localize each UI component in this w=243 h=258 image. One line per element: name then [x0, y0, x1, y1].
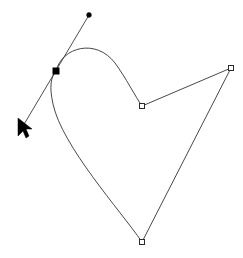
- bottom-anchor-node[interactable]: [140, 240, 145, 245]
- canvas-background: [0, 0, 243, 258]
- control-handle-endpoint[interactable]: [87, 13, 92, 18]
- right-anchor-node[interactable]: [229, 66, 234, 71]
- selected-anchor-node[interactable]: [53, 68, 59, 74]
- path-editor-svg[interactable]: [0, 0, 243, 258]
- vector-editor-canvas[interactable]: [0, 0, 243, 258]
- mid-anchor-node[interactable]: [140, 104, 145, 109]
